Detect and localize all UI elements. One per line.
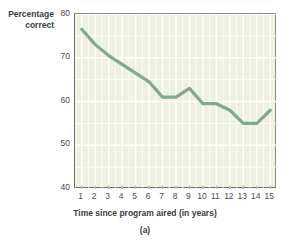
figure-panel-a: Percentage correct 80 70 60 50 40 123456… bbox=[0, 0, 290, 246]
chart-svg bbox=[75, 14, 277, 189]
y-tick-label: 80 bbox=[54, 9, 70, 18]
y-axis-title-line2: correct bbox=[2, 20, 54, 31]
figure-caption: (a) bbox=[0, 225, 290, 235]
y-axis-title-line1: Percentage bbox=[2, 9, 54, 20]
y-tick-label: 50 bbox=[54, 139, 70, 148]
y-tick-label: 70 bbox=[54, 52, 70, 61]
x-axis-title: Time since program aired (in years) bbox=[0, 208, 290, 218]
y-tick-label: 60 bbox=[54, 96, 70, 105]
y-tick-label: 40 bbox=[54, 183, 70, 192]
gridlines bbox=[75, 14, 277, 189]
plot-area bbox=[74, 13, 276, 188]
x-tick-label: 15 bbox=[261, 192, 277, 201]
y-axis-title: Percentage correct bbox=[2, 9, 54, 31]
